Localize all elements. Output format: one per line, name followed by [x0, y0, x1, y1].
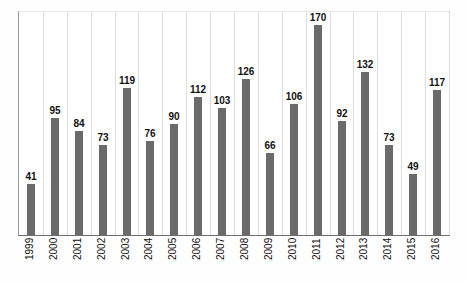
- gridline: [353, 12, 354, 235]
- bar[interactable]: [242, 79, 250, 235]
- gridline: [43, 12, 44, 235]
- x-tick-label-2000: 2000: [48, 238, 60, 280]
- bar[interactable]: [75, 131, 83, 235]
- x-tick-label-1999: 1999: [24, 238, 36, 280]
- gridline: [377, 12, 378, 235]
- gridline: [258, 12, 259, 235]
- x-tick-label-2014: 2014: [382, 238, 394, 280]
- bar-chart: 4195847311976901121031266610617092132734…: [0, 0, 467, 283]
- x-tick-label-2001: 2001: [72, 238, 84, 280]
- x-tick-label-2004: 2004: [143, 238, 155, 280]
- gridline: [425, 12, 426, 235]
- bar[interactable]: [266, 153, 274, 235]
- gridline: [138, 12, 139, 235]
- bar[interactable]: [170, 124, 178, 235]
- x-tick-label-2015: 2015: [406, 238, 418, 280]
- bar[interactable]: [146, 141, 154, 235]
- x-tick-label-2008: 2008: [239, 238, 251, 280]
- x-axis-labels: 1999200020012002200320042005200620072008…: [18, 238, 450, 283]
- bar[interactable]: [123, 88, 131, 235]
- x-tick-label-2010: 2010: [287, 238, 299, 280]
- bar-value-label: 95: [42, 105, 68, 116]
- plot-area: 4195847311976901121031266610617092132734…: [18, 11, 450, 236]
- bar-value-label: 117: [424, 77, 450, 88]
- bar-value-label: 49: [400, 161, 426, 172]
- gridline: [449, 12, 450, 235]
- gridline: [330, 12, 331, 235]
- x-tick-label-2013: 2013: [358, 238, 370, 280]
- bar[interactable]: [194, 97, 202, 235]
- x-tick-label-2003: 2003: [120, 238, 132, 280]
- bar[interactable]: [409, 174, 417, 235]
- bar[interactable]: [433, 90, 441, 235]
- gridline: [282, 12, 283, 235]
- gridline: [162, 12, 163, 235]
- bar-value-label: 112: [185, 84, 211, 95]
- x-tick-label-2006: 2006: [191, 238, 203, 280]
- bar-value-label: 132: [352, 59, 378, 70]
- x-tick-label-2012: 2012: [335, 238, 347, 280]
- bar-value-label: 41: [18, 171, 44, 182]
- bar[interactable]: [290, 104, 298, 235]
- gridline: [401, 12, 402, 235]
- bar[interactable]: [27, 184, 35, 235]
- bar-value-label: 76: [137, 128, 163, 139]
- gridline: [234, 12, 235, 235]
- bar[interactable]: [385, 145, 393, 235]
- bar[interactable]: [218, 108, 226, 235]
- bar-value-label: 73: [376, 132, 402, 143]
- gridline: [186, 12, 187, 235]
- x-tick-label-2007: 2007: [215, 238, 227, 280]
- x-tick-label-2011: 2011: [311, 238, 323, 280]
- gridline: [210, 12, 211, 235]
- bar-value-label: 119: [114, 75, 140, 86]
- gridline: [115, 12, 116, 235]
- bar[interactable]: [99, 145, 107, 235]
- bar-value-label: 106: [281, 91, 307, 102]
- x-tick-label-2002: 2002: [96, 238, 108, 280]
- bar-value-label: 66: [257, 140, 283, 151]
- bar[interactable]: [361, 72, 369, 235]
- x-tick-label-2005: 2005: [167, 238, 179, 280]
- bar-value-label: 73: [90, 132, 116, 143]
- gridline: [306, 12, 307, 235]
- bar[interactable]: [338, 121, 346, 235]
- bar[interactable]: [314, 25, 322, 235]
- x-tick-label-2009: 2009: [263, 238, 275, 280]
- bar[interactable]: [51, 118, 59, 235]
- bar-value-label: 126: [233, 66, 259, 77]
- bar-value-label: 103: [209, 95, 235, 106]
- x-tick-label-2016: 2016: [430, 238, 442, 280]
- bar-value-label: 92: [329, 108, 355, 119]
- bar-value-label: 90: [161, 111, 187, 122]
- bar-value-label: 170: [305, 12, 331, 23]
- bar-value-label: 84: [66, 118, 92, 129]
